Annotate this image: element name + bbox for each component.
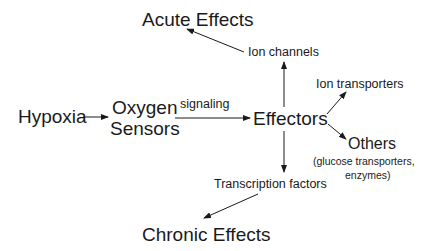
node-acute-effects: Acute Effects: [142, 10, 254, 29]
edge-label-signaling: signaling: [180, 98, 229, 111]
node-others-detail-line2: enzymes): [345, 170, 391, 181]
node-oxygen-sensors-line2: Sensors: [110, 119, 180, 138]
node-others-detail-line1: (glucose transporters,: [313, 156, 415, 167]
arrow-effectors-to-ion-transporters: [327, 92, 346, 114]
node-ion-transporters: Ion transporters: [316, 78, 404, 91]
node-ion-channels: Ion channels: [248, 46, 319, 59]
arrow-transcription-to-chronic: [204, 194, 258, 218]
arrow-effectors-to-others: [328, 124, 346, 139]
arrow-ion-channels-to-acute: [187, 29, 244, 52]
node-oxygen-sensors-line1: Oxygen: [112, 98, 177, 117]
node-hypoxia: Hypoxia: [18, 107, 87, 126]
node-others: Others: [348, 136, 396, 152]
node-effectors: Effectors: [253, 109, 328, 128]
node-chronic-effects: Chronic Effects: [142, 225, 270, 244]
node-transcription-factors: Transcription factors: [214, 178, 327, 191]
